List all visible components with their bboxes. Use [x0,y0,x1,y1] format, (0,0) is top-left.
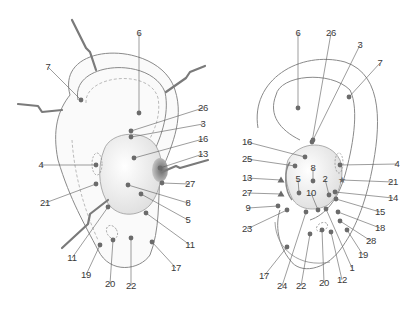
acupoint-dot-25 [293,164,298,169]
point-label-11: 11 [185,240,194,250]
acupoint-dot-1 [324,207,329,212]
point-label-25: 25 [242,154,252,164]
leader-line-12 [331,232,342,280]
point-label-24: 24 [277,281,287,291]
leader-line-20 [322,230,324,283]
acupoint-dot-11 [144,211,149,216]
point-label-6: 6 [137,28,142,38]
acupoint-dot-7 [79,98,84,103]
point-label-21: 21 [40,198,50,208]
point-label-9: 9 [246,203,251,213]
point-label-6: 6 [296,28,301,38]
point-label-2: 2 [323,174,328,184]
point-label-8: 8 [186,198,191,208]
acupoint-dot-2 [327,193,332,198]
leader-line-21 [342,180,393,182]
acupoint-dot-3 [311,138,316,143]
leader-line-23 [247,210,287,229]
point-label-4: 4 [395,159,400,169]
left-ear [18,20,208,268]
point-label-5: 5 [186,215,191,225]
left-ear-concha [100,134,162,214]
right-ear-scapha [273,95,300,140]
acupoint-dot-5 [297,191,302,196]
acupoint-dot-23 [285,208,290,213]
acupoint-dot-16 [132,156,137,161]
triangle-marker-icon [278,191,285,197]
point-label-10: 10 [306,188,316,198]
acupoint-dot-8 [126,183,131,188]
leader-line-16 [247,142,305,157]
acupoint-dot-6 [296,106,301,111]
point-label-13: 13 [242,173,252,183]
leader-line-7 [349,63,380,97]
point-label-19: 19 [81,270,91,280]
acupoint-dot-10 [316,208,321,213]
leader-line-13 [247,178,281,180]
point-label-17: 17 [171,263,181,273]
acupoint-dot-26 [129,129,134,134]
acupoint-dot-17 [285,245,290,250]
leader-line-9 [248,206,278,208]
point-label-1: 1 [350,263,355,273]
acupoint-dot-8 [311,179,316,184]
acupoint-dot-14 [333,190,338,195]
acupoint-dot-27 [160,181,165,186]
acupoint-dot-19 [345,228,350,233]
acupoint-dot-5 [139,192,144,197]
acupoint-dot-19 [98,243,103,248]
acupoint-dot-7 [347,95,352,100]
point-label-19: 19 [358,250,368,260]
point-label-20: 20 [319,278,329,288]
point-label-17: 17 [259,271,269,281]
acupoint-dot-12 [329,230,334,235]
acupoint-dot-3 [129,135,134,140]
star-marker-icon: ★ [338,175,346,185]
acupoint-dot-16 [303,155,308,160]
acupoint-dot-20 [320,228,325,233]
point-label-12: 12 [337,275,347,285]
point-label-20: 20 [105,279,115,289]
point-label-14: 14 [388,193,398,203]
point-label-8: 8 [311,163,316,173]
point-label-5: 5 [296,174,301,184]
acupoint-dot-15 [334,197,339,202]
acupoint-dot-9 [276,204,281,209]
acupoint-dot-4 [338,163,343,168]
leader-line-4 [340,164,397,165]
acupoint-dot-20 [111,238,116,243]
acupoint-dot-11 [106,205,111,210]
leader-line-14 [335,192,393,198]
leader-line-27 [247,193,281,194]
leader-line-15 [336,199,380,212]
point-label-27: 27 [185,179,195,189]
leader-line-26 [312,33,331,142]
acupoint-dot-18 [336,210,341,215]
point-label-18: 18 [375,223,385,233]
point-label-3: 3 [358,40,363,50]
triangle-marker-icon [278,177,285,183]
point-label-13: 13 [198,149,208,159]
acupoint-dot-22 [129,236,134,241]
acupoint-dot-21 [94,182,99,187]
point-label-7: 7 [46,62,51,72]
point-label-23: 23 [242,224,252,234]
retractor-right-top [166,66,205,92]
acupoint-dot-6 [137,111,142,116]
retractor-left [18,104,62,112]
point-label-21: 21 [388,177,398,187]
point-label-11: 11 [67,253,76,263]
acupoint-dot-24 [304,210,309,215]
acupoint-dot-13 [158,166,163,171]
point-label-26: 26 [326,28,336,38]
point-label-26: 26 [198,103,208,113]
ear-acupoint-diagram: ★ 67263161342721851111192022176263716258… [0,0,409,309]
point-label-7: 7 [378,58,383,68]
leader-line-22 [301,234,310,286]
acupoint-dot-28 [338,219,343,224]
point-label-16: 16 [242,137,252,147]
point-label-3: 3 [201,119,206,129]
point-label-22: 22 [296,281,306,291]
point-label-15: 15 [375,207,385,217]
point-label-22: 22 [126,281,136,291]
